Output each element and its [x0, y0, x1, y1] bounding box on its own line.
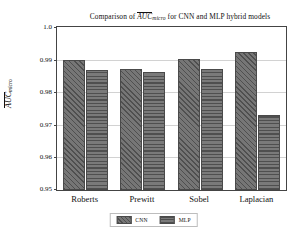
bar-roberts-cnn [63, 60, 85, 190]
chart-page: Comparison of AUCmicro for CNN and MLP h… [0, 0, 307, 242]
legend-swatch-mlp [160, 216, 175, 224]
chart-title-overline-term: AUC [137, 12, 152, 21]
y-tick-label: 0.96 [40, 153, 52, 161]
x-tick-label-laplacian: Laplacian [239, 194, 273, 204]
y-axis-subscript: micro [7, 79, 13, 92]
y-tick-mark [54, 189, 57, 190]
y-tick-label: 0.97 [40, 121, 52, 129]
y-tick-label: 0.95 [40, 185, 52, 193]
y-tick-mark [54, 92, 57, 93]
bar-group [235, 27, 280, 190]
bar-roberts-mlp [86, 70, 108, 190]
y-tick-mark [54, 60, 57, 61]
bar-group [120, 27, 165, 190]
legend-label-cnn: CNN [135, 217, 147, 223]
chart-title-subscript: micro [152, 15, 165, 21]
legend-item-cnn[interactable]: CNN [116, 216, 147, 224]
y-axis-overline-term: AUC [4, 92, 13, 108]
bar-group [178, 27, 223, 190]
y-axis-title: AUCmicro [4, 79, 13, 108]
chart-title-prefix: Comparison of [90, 12, 137, 21]
chart-legend: CNNMLP [109, 213, 198, 227]
chart-title: Comparison of AUCmicro for CNN and MLP h… [60, 12, 300, 21]
bar-laplacian-cnn [235, 52, 257, 190]
bar-sobel-cnn [178, 59, 200, 190]
y-tick-label: 1.0 [43, 23, 52, 31]
y-tick-mark [54, 27, 57, 28]
y-tick-mark [54, 157, 57, 158]
bar-group [63, 27, 108, 190]
legend-item-mlp[interactable]: MLP [160, 216, 191, 224]
x-tick-label-roberts: Roberts [71, 194, 98, 204]
bar-prewitt-mlp [143, 72, 165, 190]
legend-label-mlp: MLP [179, 217, 191, 223]
plot-area: 0.950.960.970.980.991.0 [56, 26, 287, 191]
x-tick-label-sobel: Sobel [189, 194, 209, 204]
y-tick-label: 0.99 [40, 56, 52, 64]
bar-prewitt-cnn [120, 69, 142, 190]
y-tick-label: 0.98 [40, 88, 52, 96]
x-tick-label-prewitt: Prewitt [129, 194, 154, 204]
bar-sobel-mlp [201, 69, 223, 190]
chart-title-suffix: for CNN and MLP hybrid models [166, 12, 271, 21]
bar-laplacian-mlp [258, 115, 280, 190]
y-tick-mark [54, 125, 57, 126]
legend-swatch-cnn [116, 216, 131, 224]
